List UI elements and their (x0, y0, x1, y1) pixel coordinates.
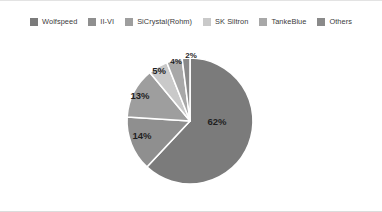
legend-swatch-icon (203, 18, 211, 26)
pie-slices-group (127, 58, 253, 184)
legend-item-others[interactable]: Others (317, 17, 351, 26)
legend-item-sicrystal-rohm[interactable]: SiCrystal(Rohm) (125, 17, 192, 26)
legend-swatch-icon (125, 18, 133, 26)
legend-swatch-icon (30, 18, 38, 26)
chart-legend: Wolfspeed II-VI SiCrystal(Rohm) SK Siltr… (0, 17, 382, 26)
pie-slice-label: 13% (130, 90, 150, 101)
legend-item-label: Wolfspeed (42, 17, 77, 26)
pie-plot-area: 62%14%13%5%4%2% (0, 39, 382, 211)
legend-item-label: II-VI (100, 17, 114, 26)
legend-swatch-icon (88, 18, 96, 26)
pie-slice-label: 5% (152, 65, 166, 76)
pie-slice-label: 14% (132, 130, 152, 141)
pie-slice-label: 2% (185, 51, 197, 60)
legend-swatch-icon (317, 18, 325, 26)
legend-item-tankeblue[interactable]: TankeBlue (259, 17, 306, 26)
legend-swatch-icon (259, 18, 267, 26)
pie-slice-label: 4% (170, 57, 182, 66)
pie-chart-svg: 62%14%13%5%4%2% (0, 39, 382, 211)
legend-item-label: SK Siltron (215, 17, 248, 26)
legend-item-wolfspeed[interactable]: Wolfspeed (30, 17, 77, 26)
legend-item-sk-siltron[interactable]: SK Siltron (203, 17, 248, 26)
legend-item-label: SiCrystal(Rohm) (137, 17, 192, 26)
legend-item-label: Others (329, 17, 351, 26)
pie-slice-label: 62% (207, 116, 227, 127)
legend-item-ii-vi[interactable]: II-VI (88, 17, 114, 26)
legend-item-label: TankeBlue (271, 17, 306, 26)
pie-chart-card: Wolfspeed II-VI SiCrystal(Rohm) SK Siltr… (0, 0, 382, 212)
